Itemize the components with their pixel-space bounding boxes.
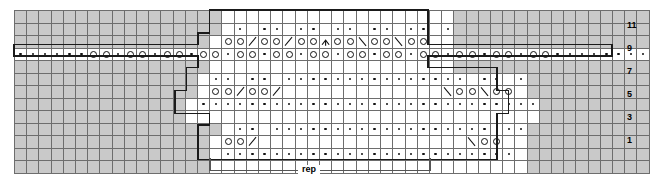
cell-no-stitch[interactable] bbox=[625, 123, 637, 136]
cell-no-stitch[interactable] bbox=[576, 148, 588, 161]
cell-no-stitch[interactable] bbox=[466, 36, 478, 49]
cell-no-stitch[interactable] bbox=[527, 161, 539, 174]
cell-no-stitch[interactable] bbox=[15, 23, 27, 36]
cell-no-stitch[interactable] bbox=[39, 148, 51, 161]
cell-no-stitch[interactable] bbox=[210, 11, 222, 24]
cell-no-stitch[interactable] bbox=[27, 73, 39, 86]
cell-yarn-over[interactable] bbox=[246, 48, 258, 61]
cell-purl[interactable] bbox=[429, 98, 441, 111]
cell-no-stitch[interactable] bbox=[63, 136, 75, 149]
cell-no-stitch[interactable] bbox=[551, 136, 563, 149]
cell-knit[interactable] bbox=[381, 136, 393, 149]
cell-no-stitch[interactable] bbox=[124, 136, 136, 149]
cell-no-stitch[interactable] bbox=[149, 123, 161, 136]
cell-knit[interactable] bbox=[429, 11, 441, 24]
cell-no-stitch[interactable] bbox=[88, 98, 100, 111]
cell-no-stitch[interactable] bbox=[490, 11, 502, 24]
cell-no-stitch[interactable] bbox=[637, 36, 650, 49]
cell-no-stitch[interactable] bbox=[564, 148, 576, 161]
cell-knit[interactable] bbox=[356, 86, 368, 99]
cell-purl[interactable] bbox=[283, 123, 295, 136]
cell-no-stitch[interactable] bbox=[124, 23, 136, 36]
cell-purl[interactable] bbox=[393, 98, 405, 111]
cell-no-stitch[interactable] bbox=[112, 86, 124, 99]
cell-knit[interactable] bbox=[283, 136, 295, 149]
cell-knit[interactable] bbox=[320, 23, 332, 36]
cell-yarn-over[interactable] bbox=[271, 36, 283, 49]
cell-purl[interactable] bbox=[612, 48, 624, 61]
cell-knit[interactable] bbox=[503, 136, 515, 149]
cell-no-stitch[interactable] bbox=[88, 73, 100, 86]
cell-no-stitch[interactable] bbox=[564, 23, 576, 36]
cell-no-stitch[interactable] bbox=[564, 11, 576, 24]
cell-no-stitch[interactable] bbox=[15, 61, 27, 74]
cell-knit[interactable] bbox=[295, 11, 307, 24]
cell-no-stitch[interactable] bbox=[100, 123, 112, 136]
cell-knit[interactable] bbox=[283, 61, 295, 74]
cell-knit[interactable] bbox=[417, 86, 429, 99]
cell-purl[interactable] bbox=[503, 148, 515, 161]
cell-knit[interactable] bbox=[332, 136, 344, 149]
cell-no-stitch[interactable] bbox=[637, 23, 650, 36]
cell-no-stitch[interactable] bbox=[63, 111, 75, 124]
cell-no-stitch[interactable] bbox=[564, 36, 576, 49]
cell-no-stitch[interactable] bbox=[88, 61, 100, 74]
cell-k2tog[interactable] bbox=[234, 86, 246, 99]
cell-no-stitch[interactable] bbox=[539, 36, 551, 49]
cell-purl[interactable] bbox=[222, 98, 234, 111]
cell-purl[interactable] bbox=[344, 73, 356, 86]
cell-purl[interactable] bbox=[246, 123, 258, 136]
cell-purl[interactable] bbox=[454, 98, 466, 111]
cell-no-stitch[interactable] bbox=[124, 36, 136, 49]
cell-no-stitch[interactable] bbox=[576, 161, 588, 174]
cell-knit[interactable] bbox=[307, 11, 319, 24]
cell-no-stitch[interactable] bbox=[478, 36, 490, 49]
cell-purl[interactable] bbox=[283, 98, 295, 111]
cell-purl[interactable] bbox=[405, 48, 417, 61]
cell-yarn-over[interactable] bbox=[307, 36, 319, 49]
cell-no-stitch[interactable] bbox=[137, 161, 149, 174]
cell-no-stitch[interactable] bbox=[100, 111, 112, 124]
cell-no-stitch[interactable] bbox=[612, 36, 624, 49]
cell-no-stitch[interactable] bbox=[39, 123, 51, 136]
cell-knit[interactable] bbox=[429, 111, 441, 124]
cell-no-stitch[interactable] bbox=[198, 36, 210, 49]
cell-knit[interactable] bbox=[332, 61, 344, 74]
cell-no-stitch[interactable] bbox=[637, 98, 650, 111]
cell-purl[interactable] bbox=[393, 123, 405, 136]
cell-no-stitch[interactable] bbox=[51, 161, 63, 174]
cell-no-stitch[interactable] bbox=[76, 11, 88, 24]
cell-knit[interactable] bbox=[246, 61, 258, 74]
cell-no-stitch[interactable] bbox=[185, 148, 197, 161]
cell-no-stitch[interactable] bbox=[100, 73, 112, 86]
cell-no-stitch[interactable] bbox=[503, 36, 515, 49]
cell-no-stitch[interactable] bbox=[551, 23, 563, 36]
cell-yarn-over[interactable] bbox=[381, 48, 393, 61]
cell-knit[interactable] bbox=[246, 23, 258, 36]
cell-knit[interactable] bbox=[344, 136, 356, 149]
cell-yarn-over[interactable] bbox=[234, 136, 246, 149]
cell-no-stitch[interactable] bbox=[551, 161, 563, 174]
cell-no-stitch[interactable] bbox=[588, 161, 600, 174]
cell-no-stitch[interactable] bbox=[637, 111, 650, 124]
cell-purl[interactable] bbox=[429, 123, 441, 136]
cell-no-stitch[interactable] bbox=[539, 148, 551, 161]
cell-knit[interactable] bbox=[332, 111, 344, 124]
cell-ssk[interactable] bbox=[356, 36, 368, 49]
cell-no-stitch[interactable] bbox=[551, 98, 563, 111]
cell-knit[interactable] bbox=[271, 73, 283, 86]
cell-no-stitch[interactable] bbox=[137, 148, 149, 161]
cell-no-stitch[interactable] bbox=[76, 86, 88, 99]
cell-purl[interactable] bbox=[478, 123, 490, 136]
cell-purl[interactable] bbox=[405, 73, 417, 86]
cell-no-stitch[interactable] bbox=[51, 23, 63, 36]
cell-no-stitch[interactable] bbox=[88, 86, 100, 99]
cell-purl[interactable] bbox=[246, 73, 258, 86]
cell-knit[interactable] bbox=[271, 11, 283, 24]
cell-knit[interactable] bbox=[234, 11, 246, 24]
cell-ssk[interactable] bbox=[442, 86, 454, 99]
cell-no-stitch[interactable] bbox=[185, 23, 197, 36]
cell-no-stitch[interactable] bbox=[39, 23, 51, 36]
cell-no-stitch[interactable] bbox=[100, 61, 112, 74]
cell-yarn-over[interactable] bbox=[344, 36, 356, 49]
